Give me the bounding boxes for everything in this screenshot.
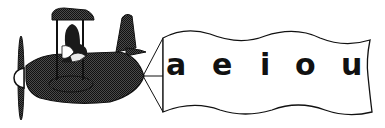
canopy-roof-icon: [52, 8, 94, 20]
airplane-banner-illustration: a e i o u: [0, 0, 385, 128]
banner-letter-e: e: [212, 50, 232, 80]
illustration-svg: [0, 0, 385, 128]
propeller-icon: [14, 36, 24, 120]
banner-letter-u: u: [341, 50, 362, 80]
banner-letter-i: i: [260, 50, 270, 80]
tow-rope-icon: [143, 38, 163, 112]
banner-letter-o: o: [295, 50, 316, 80]
tail-fin-icon: [116, 14, 136, 52]
banner-letter-a: a: [166, 50, 186, 80]
